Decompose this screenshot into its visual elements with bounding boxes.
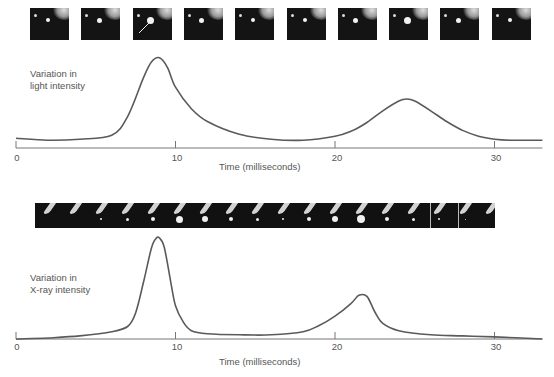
bottom-ylabel-line2: X-ray intensity <box>30 284 90 296</box>
bottom-ylabel-line1: Variation in <box>30 272 90 284</box>
top-ylabel-line2: light intensity <box>30 80 85 92</box>
xray-intensity-curve <box>16 237 542 339</box>
flash-arrow-icon <box>139 21 151 33</box>
top-tick-20: 20 <box>332 152 343 163</box>
figure-canvas <box>0 0 554 377</box>
light-intensity-curve <box>16 58 542 141</box>
bottom-tick-20: 20 <box>332 341 343 352</box>
bottom-tick-30: 30 <box>491 341 502 352</box>
bottom-x-axis-label: Time (milliseconds) <box>219 356 300 367</box>
bottom-tick-10: 10 <box>172 341 183 352</box>
bottom-tick-0: 0 <box>14 341 19 352</box>
top-y-axis-label: Variation in light intensity <box>30 68 85 92</box>
top-x-axis <box>16 141 542 148</box>
top-ylabel-line1: Variation in <box>30 68 85 80</box>
top-tick-0: 0 <box>14 152 19 163</box>
bottom-y-axis-label: Variation in X-ray intensity <box>30 272 90 296</box>
top-x-axis-label: Time (milliseconds) <box>219 161 300 172</box>
top-tick-10: 10 <box>172 152 183 163</box>
top-tick-30: 30 <box>491 152 502 163</box>
